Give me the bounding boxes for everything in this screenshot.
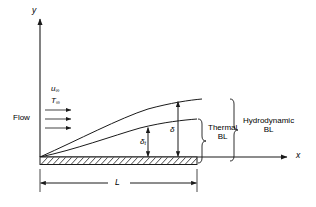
flat-plate [40, 157, 197, 165]
flow-arrows [45, 110, 71, 128]
diagram-canvas [0, 0, 316, 207]
x-axis-label: x [296, 151, 300, 161]
flow-label: Flow [13, 114, 30, 123]
hydrodynamic-thickness-label: δ [170, 126, 174, 135]
hydrodynamic-bl-label-line2: BL [243, 126, 294, 135]
hydrodynamic-bl-label: Hydrodynamic BL [243, 117, 294, 135]
free-stream-temperature-label: T∞ [51, 97, 60, 106]
boundary-layer-diagram: y x Flow u∞ T∞ δt δ Thermal BL Hydrodyna… [0, 0, 316, 207]
thermal-bl-label: Thermal BL [208, 124, 237, 142]
thermal-thickness-subscript: t [144, 140, 146, 146]
thermal-bl-brace [198, 119, 206, 163]
thermal-bl-label-line2: BL [208, 133, 237, 142]
velocity-subscript: ∞ [55, 87, 59, 93]
y-axis-label: y [32, 6, 36, 16]
thermal-thickness-label: δt [140, 138, 146, 147]
plate-length-label: L [115, 178, 120, 188]
temperature-subscript: ∞ [56, 99, 60, 105]
free-stream-velocity-label: u∞ [51, 85, 59, 94]
hydrodynamic-thickness-symbol: δ [170, 125, 174, 134]
